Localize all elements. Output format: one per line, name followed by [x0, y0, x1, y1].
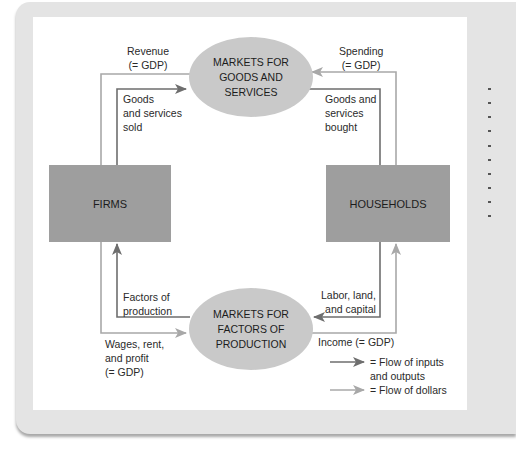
- firms-label: FIRMS: [93, 198, 127, 210]
- firms-box: FIRMS: [49, 165, 171, 242]
- households-box: HOUSEHOLDS: [326, 165, 450, 242]
- goods-sold-label: Goods and services sold: [123, 92, 182, 134]
- wages-label: Wages, rent, and profit (= GDP): [105, 337, 164, 379]
- goods-market-label: MARKETS FOR GOODS AND SERVICES: [213, 55, 289, 100]
- factors-label: Factors of production: [123, 290, 172, 318]
- wages-flow: [101, 242, 186, 333]
- labor-label: Labor, land, and capital: [321, 288, 376, 316]
- revenue-label: Revenue (= GDP): [127, 44, 169, 72]
- factor-market-oval: MARKETS FOR FACTORS OF PRODUCTION: [189, 288, 313, 370]
- legend-dollars: = Flow of dollars: [370, 383, 447, 397]
- households-label: HOUSEHOLDS: [349, 198, 426, 210]
- factor-market-label: MARKETS FOR FACTORS OF PRODUCTION: [213, 307, 289, 352]
- income-label: Income (= GDP): [318, 335, 394, 349]
- legend-inputs-outputs: = Flow of inputs and outputs: [370, 355, 444, 383]
- goods-market-oval: MARKETS FOR GOODS AND SERVICES: [189, 37, 313, 117]
- goods-bought-label: Goods and services bought: [325, 92, 376, 134]
- spending-label: Spending (= GDP): [339, 44, 383, 72]
